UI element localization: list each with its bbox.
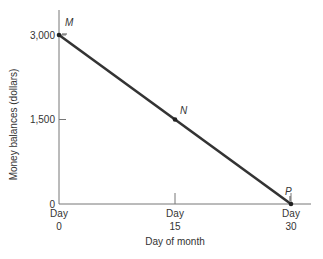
x-tick-label: 30 bbox=[285, 221, 297, 232]
x-tick-label: Day bbox=[282, 208, 300, 219]
point-m bbox=[57, 33, 62, 38]
point-label-m: M bbox=[65, 17, 74, 28]
points: MNP bbox=[57, 17, 294, 206]
y-tick-label: 1,500 bbox=[30, 114, 55, 125]
y-tick-label: 3,000 bbox=[30, 30, 55, 41]
y-axis-title: Money balances (dollars) bbox=[8, 69, 19, 181]
point-n bbox=[173, 117, 178, 122]
point-p bbox=[289, 202, 294, 207]
money-balance-chart: 01,5003,000 Day0Day15Day30 MNP Day of mo… bbox=[0, 0, 323, 259]
x-axis-title: Day of month bbox=[145, 236, 204, 247]
point-label-n: N bbox=[180, 105, 188, 116]
x-ticks: Day0Day15Day30 bbox=[50, 193, 300, 232]
x-tick-label: Day bbox=[166, 208, 184, 219]
point-label-p: P bbox=[285, 186, 292, 197]
y-ticks: 01,5003,000 bbox=[30, 30, 66, 210]
x-tick-label: 0 bbox=[56, 221, 62, 232]
x-tick-label: Day bbox=[50, 208, 68, 219]
x-tick-label: 15 bbox=[169, 221, 181, 232]
